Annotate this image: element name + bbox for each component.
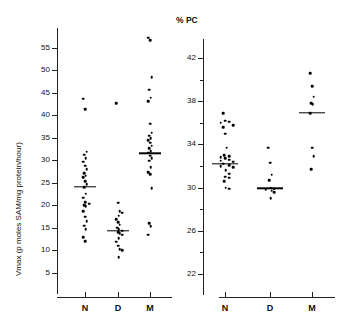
data-point xyxy=(151,144,154,147)
y-tick-label-15: 15 xyxy=(29,224,50,232)
data-point xyxy=(228,155,231,158)
data-point xyxy=(313,96,316,99)
data-point xyxy=(223,154,226,157)
data-point xyxy=(232,166,235,169)
data-point xyxy=(269,161,272,164)
data-point xyxy=(225,186,228,189)
data-point xyxy=(150,97,153,100)
y-tick-50 xyxy=(52,70,57,71)
data-point xyxy=(148,160,151,163)
y-tick-24 xyxy=(200,252,203,253)
data-point xyxy=(85,228,88,231)
data-point xyxy=(313,155,316,158)
data-point xyxy=(220,165,223,168)
data-point xyxy=(223,180,226,183)
data-point xyxy=(147,233,150,236)
y-tick-30 xyxy=(52,160,57,161)
data-point xyxy=(84,215,87,218)
data-point xyxy=(267,146,270,149)
y-tick-label-26: 26 xyxy=(175,227,196,235)
y-tick-32 xyxy=(200,166,203,167)
data-point xyxy=(268,179,271,182)
y-tick-15 xyxy=(52,228,57,229)
y-axis-line xyxy=(57,28,58,294)
mean-bar-D xyxy=(107,230,129,231)
x-tick-label-N: N xyxy=(222,304,229,313)
mean-bar-N xyxy=(212,163,238,164)
data-point xyxy=(149,122,152,125)
data-point xyxy=(151,157,154,160)
data-point xyxy=(82,176,85,179)
x-tick-label-N: N xyxy=(82,304,89,313)
y-tick-26 xyxy=(198,231,203,232)
data-point xyxy=(121,233,124,236)
data-point xyxy=(220,156,223,159)
x-tick-M xyxy=(312,292,313,297)
y-tick-28 xyxy=(200,209,203,210)
data-point xyxy=(86,220,89,223)
x-tick-label-D: D xyxy=(115,304,122,313)
data-point xyxy=(85,157,88,160)
pc-panel: 222630343842NDM% PC xyxy=(167,0,339,326)
data-point xyxy=(224,176,227,179)
y-tick-42 xyxy=(198,58,203,59)
y-tick-label-35: 35 xyxy=(29,134,50,142)
data-point xyxy=(265,188,268,191)
y-tick-55 xyxy=(52,48,57,49)
y-tick-34 xyxy=(198,144,203,145)
data-point xyxy=(115,241,118,244)
data-point xyxy=(309,72,312,75)
y-tick-label-22: 22 xyxy=(175,270,196,278)
data-point xyxy=(117,244,120,247)
data-point xyxy=(85,192,88,195)
data-point xyxy=(118,237,121,240)
data-point xyxy=(271,173,274,176)
y-tick-40 xyxy=(52,115,57,116)
data-point xyxy=(82,210,85,213)
data-point xyxy=(85,205,88,208)
y-tick-label-10: 10 xyxy=(29,246,50,254)
y-tick-label-5: 5 xyxy=(29,269,50,277)
data-point xyxy=(222,112,225,115)
panel-title: % PC xyxy=(176,15,198,25)
y-tick-label-34: 34 xyxy=(175,140,196,148)
mean-bar-N xyxy=(74,186,96,187)
data-point xyxy=(82,161,85,164)
x-tick-D xyxy=(118,292,119,297)
x-tick-D xyxy=(270,292,271,297)
data-point xyxy=(311,146,314,149)
y-tick-40 xyxy=(200,80,203,81)
data-point xyxy=(84,108,87,111)
data-point xyxy=(225,169,228,172)
y-tick-label-20: 20 xyxy=(29,201,50,209)
data-point xyxy=(150,166,153,169)
data-point xyxy=(228,177,231,180)
data-point xyxy=(228,158,231,161)
data-point xyxy=(83,224,86,227)
data-point xyxy=(82,98,85,101)
data-point xyxy=(84,165,87,168)
y-tick-10 xyxy=(52,250,57,251)
y-tick-label-40: 40 xyxy=(29,111,50,119)
data-point xyxy=(83,153,86,156)
y-tick-36 xyxy=(200,123,203,124)
data-point xyxy=(149,39,152,42)
y-tick-label-50: 50 xyxy=(29,66,50,74)
y-tick-label-30: 30 xyxy=(175,184,196,192)
data-point xyxy=(220,159,223,162)
y-tick-label-30: 30 xyxy=(29,156,50,164)
data-point xyxy=(220,121,223,124)
data-point xyxy=(119,224,122,227)
data-point xyxy=(151,76,154,79)
data-point xyxy=(82,236,85,239)
data-point xyxy=(121,249,124,252)
data-point xyxy=(147,100,150,103)
data-point xyxy=(226,146,229,149)
data-point xyxy=(149,173,152,176)
y-axis-line xyxy=(203,39,204,295)
mean-bar-M xyxy=(139,153,161,154)
data-point xyxy=(85,174,88,177)
y-tick-label-45: 45 xyxy=(29,89,50,97)
x-tick-label-M: M xyxy=(308,304,316,313)
data-point xyxy=(150,225,153,228)
